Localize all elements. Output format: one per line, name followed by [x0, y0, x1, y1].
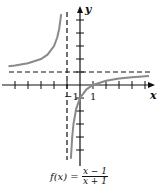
function-graph	[0, 0, 158, 188]
denominator: x + 1	[82, 177, 108, 186]
fraction: x − 1 x + 1	[82, 167, 108, 186]
function-caption: f(x) = x − 1 x + 1	[0, 167, 158, 186]
y-axis-label: y	[85, 3, 91, 16]
curve-right-branch	[71, 76, 149, 159]
tick-label-one: 1	[90, 91, 96, 102]
curve-left-branch	[9, 14, 62, 66]
x-axis-label: x	[150, 89, 157, 102]
y-axis-arrow-icon	[77, 6, 83, 13]
tick-label-neg-one: −1	[64, 91, 79, 102]
x-axis-arrow-icon	[148, 82, 155, 88]
function-label: f(x) =	[50, 171, 79, 182]
